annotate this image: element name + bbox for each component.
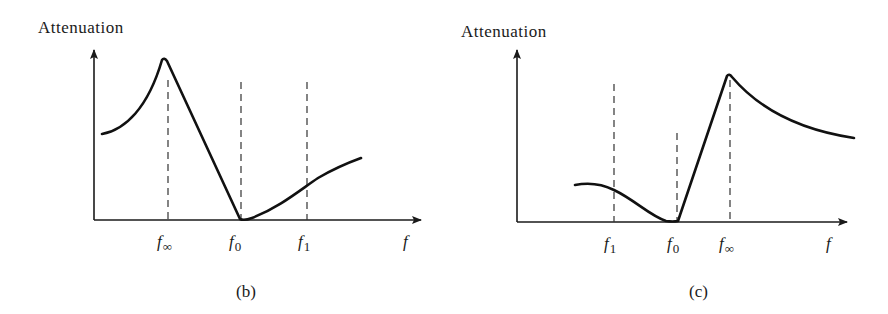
diagram-c: Attenuation f1 f0 f∞ f (c) — [461, 22, 854, 301]
marker-label-f-infinity: f∞ — [157, 232, 172, 254]
marker-label-f-infinity: f∞ — [719, 234, 734, 256]
marker-label-f-one: f1 — [604, 234, 616, 256]
caption-b: (b) — [236, 282, 256, 301]
marker-label-f-zero: f0 — [667, 234, 679, 256]
x-axis-label: f — [826, 234, 833, 253]
y-axis-label: Attenuation — [38, 18, 124, 37]
marker-label-f-zero: f0 — [229, 232, 241, 254]
diagram-b: Attenuation f∞ f0 f1 f (b) — [38, 18, 421, 301]
attenuation-diagrams: Attenuation f∞ f0 f1 f (b) Attenuation f… — [0, 0, 888, 314]
x-axis-label: f — [403, 232, 410, 251]
attenuation-curve — [575, 75, 854, 222]
caption-c: (c) — [689, 282, 708, 301]
y-axis-label: Attenuation — [461, 22, 547, 41]
marker-label-f-one: f1 — [298, 232, 310, 254]
attenuation-curve — [102, 59, 361, 220]
